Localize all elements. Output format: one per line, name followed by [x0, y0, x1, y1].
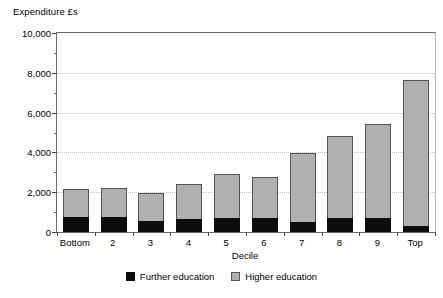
bar-segment-further-education[interactable]: [252, 218, 278, 232]
bar-group[interactable]: [138, 33, 164, 232]
bar-group[interactable]: [403, 33, 429, 232]
x-axis-tick-label: 5: [207, 237, 245, 251]
bar-group[interactable]: [252, 33, 278, 232]
plot-area: 02,0004,0006,0008,00010,000: [56, 32, 436, 233]
y-axis-tick-label: 4,000: [27, 147, 51, 158]
x-tick: [133, 232, 134, 236]
y-axis-tick-label: 10,000: [22, 28, 51, 39]
bar-segment-further-education[interactable]: [101, 217, 127, 232]
bar-group[interactable]: [365, 33, 391, 232]
x-tick: [397, 232, 398, 236]
x-axis-tick-label: 9: [358, 237, 396, 251]
bar-segment-higher-education[interactable]: [327, 136, 353, 218]
x-axis-tick-label: Top: [396, 237, 434, 251]
chart-legend: Further educationHigher education: [0, 271, 443, 282]
x-axis-labels: Bottom23456789Top: [56, 237, 434, 251]
bar-segment-further-education[interactable]: [176, 219, 202, 232]
x-tick: [322, 232, 323, 236]
bar-group[interactable]: [290, 33, 316, 232]
bar-group[interactable]: [214, 33, 240, 232]
bar-segment-higher-education[interactable]: [138, 193, 164, 222]
bar-segment-higher-education[interactable]: [176, 184, 202, 219]
legend-item[interactable]: Higher education: [231, 271, 317, 282]
bar-segment-further-education[interactable]: [214, 218, 240, 232]
x-tick: [57, 232, 58, 236]
y-axis-tick-label: 6,000: [27, 107, 51, 118]
grey-square-icon: [231, 272, 240, 281]
plot-inner: 02,0004,0006,0008,00010,000: [57, 33, 435, 232]
x-tick: [359, 232, 360, 236]
bar-group[interactable]: [176, 33, 202, 232]
bar-group[interactable]: [327, 33, 353, 232]
x-axis-tick-label: 4: [169, 237, 207, 251]
bar-segment-higher-education[interactable]: [365, 124, 391, 219]
x-axis-tick-label: Bottom: [56, 237, 94, 251]
legend-item[interactable]: Further education: [126, 271, 214, 282]
bar-segment-higher-education[interactable]: [214, 174, 240, 218]
legend-item-label: Higher education: [245, 271, 317, 282]
bar-group[interactable]: [63, 33, 89, 232]
stacked-bar-chart: Expenditure £s 02,0004,0006,0008,00010,0…: [0, 0, 443, 298]
x-tick: [284, 232, 285, 236]
bar-segment-higher-education[interactable]: [63, 189, 89, 217]
x-axis-title: Decile: [56, 250, 434, 261]
x-tick: [435, 232, 436, 236]
x-tick: [95, 232, 96, 236]
x-tick: [170, 232, 171, 236]
bar-segment-higher-education[interactable]: [252, 177, 278, 218]
x-tick: [246, 232, 247, 236]
y-axis-tick-label: 2,000: [27, 187, 51, 198]
x-axis-tick-label: 2: [94, 237, 132, 251]
bar-segment-further-education[interactable]: [138, 221, 164, 232]
bar-segment-further-education[interactable]: [365, 218, 391, 232]
bars-layer: [57, 33, 435, 232]
bar-segment-further-education[interactable]: [290, 222, 316, 232]
bar-segment-higher-education[interactable]: [403, 80, 429, 226]
y-axis-title: Expenditure £s: [13, 6, 78, 17]
x-axis-tick-label: 8: [321, 237, 359, 251]
x-tick: [208, 232, 209, 236]
y-axis-tick-label: 0: [46, 227, 51, 238]
x-axis-tick-label: 6: [245, 237, 283, 251]
black-square-icon: [126, 272, 135, 281]
x-axis-tick-label: 3: [132, 237, 170, 251]
bar-segment-further-education[interactable]: [327, 218, 353, 232]
bar-segment-further-education[interactable]: [63, 217, 89, 232]
bar-group[interactable]: [101, 33, 127, 232]
x-axis-tick-label: 7: [283, 237, 321, 251]
bar-segment-higher-education[interactable]: [290, 153, 316, 222]
legend-item-label: Further education: [140, 271, 214, 282]
y-axis-tick-label: 8,000: [27, 67, 51, 78]
bar-segment-higher-education[interactable]: [101, 188, 127, 217]
bar-segment-further-education[interactable]: [403, 226, 429, 232]
